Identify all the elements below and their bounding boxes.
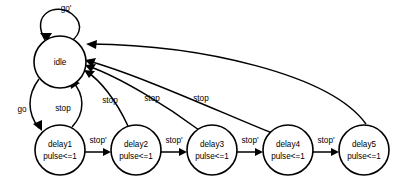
state-circle-delay5[interactable]: [339, 125, 389, 175]
transition-label-idle-delay1: go: [17, 105, 27, 114]
transition-label-delay1-delay2: stop': [89, 136, 106, 145]
state-action-delay1: pulse<=1: [43, 152, 77, 161]
arrowhead-delay3-delay4: [255, 148, 263, 156]
transition-delay4-delay5: [313, 148, 339, 156]
state-node-delay2[interactable]: delay2 pulse<=1: [111, 125, 161, 175]
transition-label-delay3-idle: stop: [144, 94, 160, 103]
state-label-delay2: delay2: [124, 140, 149, 149]
state-node-delay1[interactable]: delay1 pulse<=1: [35, 125, 85, 175]
state-label-delay3: delay3: [200, 140, 225, 149]
transition-label-delay4-delay5: stop': [317, 136, 334, 145]
transition-label-delay4-idle: stop: [193, 94, 209, 103]
state-circle-delay4[interactable]: [263, 125, 313, 175]
arrowhead-delay2-delay3: [179, 148, 187, 156]
transition-delay5-idle: [86, 40, 366, 124]
state-label-delay5: delay5: [352, 140, 377, 149]
fsm-diagram-canvas: idle delay1 pulse<=1 delay2 pulse<=1 del…: [0, 0, 403, 185]
state-circle-delay2[interactable]: [111, 125, 161, 175]
transition-label-idle-self: go': [61, 4, 72, 13]
state-node-delay3[interactable]: delay3 pulse<=1: [187, 125, 237, 175]
transition-delay1-delay2: [85, 148, 111, 156]
state-action-delay5: pulse<=1: [347, 152, 381, 161]
transition-idle-delay1: [30, 79, 42, 131]
transition-delay1-idle: [70, 79, 82, 127]
transition-delay3-delay4: [237, 148, 263, 156]
transition-label-delay2-delay3: stop': [165, 136, 182, 145]
fsm-svg: idle delay1 pulse<=1 delay2 pulse<=1 del…: [0, 0, 403, 185]
state-label-idle: idle: [54, 58, 67, 67]
state-circle-delay1[interactable]: [35, 125, 85, 175]
transition-label-delay2-idle: stop: [102, 96, 118, 105]
state-node-delay4[interactable]: delay4 pulse<=1: [263, 125, 313, 175]
state-label-delay4: delay4: [276, 140, 301, 149]
arrowhead-delay4-delay5: [331, 148, 339, 156]
state-node-idle[interactable]: idle: [34, 36, 86, 88]
state-label-delay1: delay1: [48, 140, 73, 149]
arrowhead-delay1-delay2: [103, 148, 111, 156]
state-action-delay4: pulse<=1: [271, 152, 305, 161]
state-action-delay2: pulse<=1: [119, 152, 153, 161]
transition-label-delay3-delay4: stop': [241, 136, 258, 145]
state-action-delay3: pulse<=1: [195, 152, 229, 161]
transition-label-delay1-idle: stop: [55, 104, 71, 113]
arrowhead-delay5-idle: [86, 40, 97, 49]
state-node-delay5[interactable]: delay5 pulse<=1: [339, 125, 389, 175]
transition-delay2-delay3: [161, 148, 187, 156]
state-circle-delay3[interactable]: [187, 125, 237, 175]
